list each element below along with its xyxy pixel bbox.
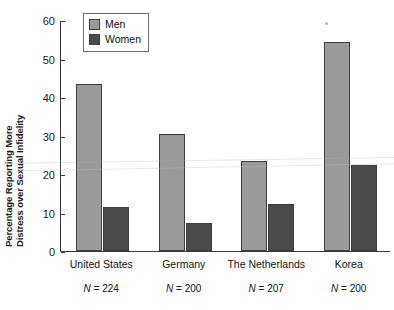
y-axis-tick (61, 21, 65, 22)
plot-area: 0102030405060 (60, 21, 390, 252)
legend-label-women: Women (105, 34, 141, 45)
y-axis-tick-label: 60 (43, 15, 55, 27)
bar-chart: Percentage Reporting More Distress over … (0, 0, 394, 310)
x-axis-category-label: Germany (162, 258, 205, 270)
x-axis-category-label: The Netherlands (227, 258, 305, 270)
legend-label-men: Men (105, 19, 125, 30)
x-axis-category-label: Korea (335, 258, 363, 270)
y-axis-label-line-1: Percentage Reporting More (3, 125, 14, 247)
legend-item-women: Women (89, 32, 141, 47)
y-axis-tick-label: 0 (49, 246, 55, 258)
y-axis-tick-label: 30 (43, 131, 55, 143)
x-axis-sample-size-note: N = 200 (166, 283, 201, 294)
legend-item-men: Men (89, 17, 141, 32)
bar-women-korea (351, 165, 377, 251)
y-axis-tick (61, 60, 65, 61)
chart-legend: Men Women (83, 13, 149, 52)
y-axis-tick-label: 40 (43, 92, 55, 104)
y-axis-label: Percentage Reporting More Distress over … (0, 0, 34, 255)
y-axis-tick-label: 20 (43, 169, 55, 181)
legend-swatch-women (89, 34, 100, 45)
y-axis-tick (61, 252, 65, 253)
y-axis-tick (61, 98, 65, 99)
y-axis-tick (61, 137, 65, 138)
legend-swatch-men (89, 19, 100, 30)
x-axis-category-label: United States (70, 258, 133, 270)
y-axis-tick-label: 10 (43, 208, 55, 220)
y-axis-tick-label: 50 (43, 54, 55, 66)
bar-women-the-netherlands (268, 204, 294, 251)
y-axis-tick (61, 175, 65, 176)
bar-men-germany (159, 134, 185, 251)
bar-men-korea (324, 42, 350, 251)
y-axis-label-line-2: Distress over Sexual Infidelity (14, 115, 25, 247)
y-axis-tick (61, 214, 65, 215)
x-axis-sample-size-note: N = 224 (84, 283, 119, 294)
x-axis-sample-size-note: N = 200 (331, 283, 366, 294)
bar-women-germany (186, 223, 212, 251)
bar-men-united-states (76, 84, 102, 251)
bar-men-the-netherlands (241, 161, 267, 251)
x-axis-sample-size-note: N = 207 (249, 283, 284, 294)
bar-women-united-states (103, 207, 129, 251)
